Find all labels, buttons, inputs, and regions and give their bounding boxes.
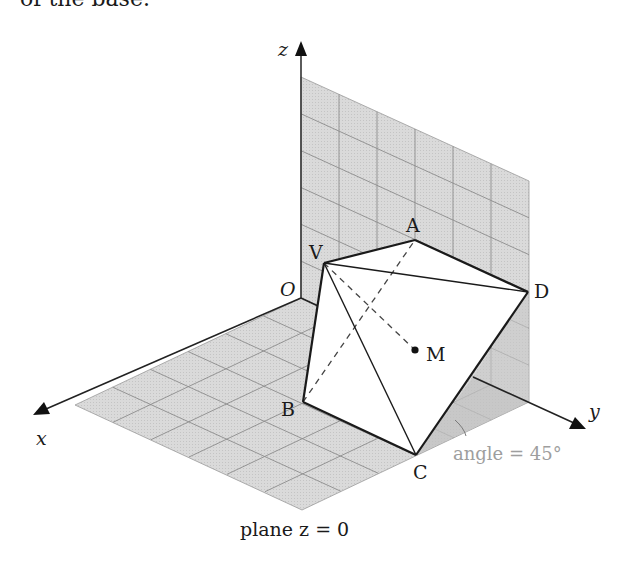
- point-B-label: B: [281, 398, 295, 420]
- y-axis-label: y: [588, 400, 600, 422]
- point-V-label: V: [308, 241, 323, 263]
- plane-label: plane z = 0: [240, 518, 349, 540]
- point-A-label: A: [405, 214, 420, 236]
- x-axis-label: x: [36, 427, 47, 449]
- angle-label: angle = 45°: [453, 443, 562, 464]
- header-partial-text: of the base.: [20, 0, 150, 11]
- point-M-dot: [411, 346, 418, 353]
- pyramid-diagram: of the base.: [0, 0, 629, 561]
- z-axis-arrow-icon: [295, 41, 307, 56]
- origin-label: O: [280, 278, 296, 300]
- point-C-label: C: [413, 461, 428, 483]
- point-M-label: M: [426, 343, 445, 365]
- z-axis-label: z: [277, 38, 289, 60]
- point-D-label: D: [534, 280, 549, 302]
- y-axis-arrow-icon: [569, 417, 586, 429]
